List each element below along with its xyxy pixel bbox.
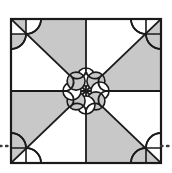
construction-lines-group (11, 19, 161, 163)
geometric-figure: Geometric quilt-block tiling motif Squar… (0, 0, 172, 173)
figure-canvas: Geometric quilt-block tiling motif Squar… (0, 0, 172, 173)
